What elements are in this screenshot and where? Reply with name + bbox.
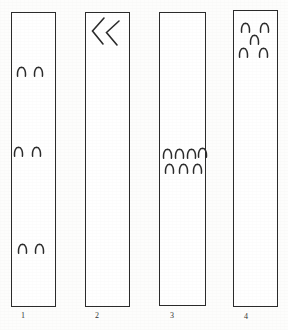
strip-2-label: 2 xyxy=(87,311,107,321)
arch-mark xyxy=(17,243,28,254)
arch-mark xyxy=(259,22,270,33)
strip-1 xyxy=(11,12,56,307)
strip-4-label: 4 xyxy=(236,312,256,322)
arch-mark xyxy=(174,148,185,159)
arch-mark xyxy=(33,66,44,77)
arch-mark xyxy=(240,22,251,33)
arch-mark xyxy=(34,243,45,254)
strip-3-label: 3 xyxy=(162,311,182,321)
arch-mark xyxy=(164,163,175,174)
arch-mark xyxy=(258,47,269,58)
arch-mark xyxy=(186,148,197,159)
strip-1-label: 1 xyxy=(13,311,33,321)
figure-canvas: 1 2 3 4 xyxy=(0,0,288,330)
arch-mark xyxy=(238,47,249,58)
arch-mark xyxy=(162,148,173,159)
strip-2 xyxy=(85,12,130,307)
arch-mark xyxy=(16,66,27,77)
arch-mark xyxy=(13,146,24,157)
double-chevron-left-icon xyxy=(90,15,122,47)
arch-mark xyxy=(178,163,189,174)
arch-mark xyxy=(249,34,260,45)
arch-mark xyxy=(31,146,42,157)
arch-mark xyxy=(197,147,208,158)
arch-mark xyxy=(192,163,203,174)
strip-3 xyxy=(159,12,206,306)
